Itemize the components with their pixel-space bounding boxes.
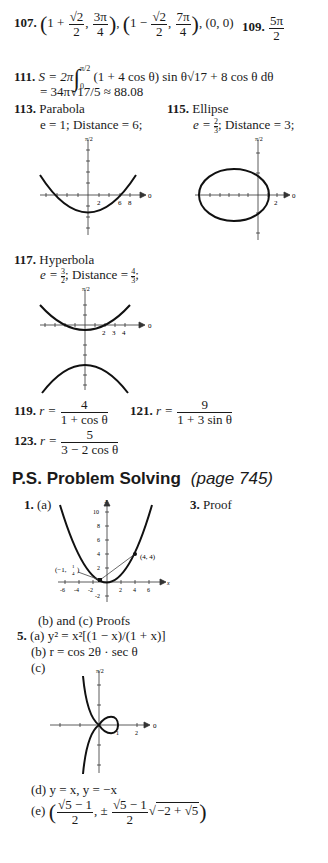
answer-119: 119. r = 41 + cos θ [14,398,109,426]
svg-text:4: 4 [122,329,126,337]
answer-117: 117. Hyperbola [14,252,94,268]
svg-text:π/2: π/2 [96,668,104,674]
graph-ps1-parabola: y x 10 8 6 4 2 -2 -6 -4 -2 2 4 6 (4, 4) … [0,500,175,610]
svg-text:0: 0 [148,322,152,330]
svg-text:-6: -6 [60,587,65,593]
svg-text:4: 4 [97,551,100,557]
svg-text:2: 2 [119,587,122,593]
svg-text:-2: -2 [88,587,93,593]
ps-5d: (d) y = x, y = −x [31,782,117,798]
svg-text:y: y [104,500,108,503]
svg-text:8: 8 [97,523,100,529]
ps-1-bc: (b) and (c) Proofs [38,613,130,629]
answer-113-detail: e = 1; Distance = 6; [40,117,142,133]
svg-text:(−1,: (−1, [55,566,67,574]
svg-text:2: 2 [97,565,100,571]
answer-113: 113. Parabola [14,101,85,117]
svg-text:0: 0 [292,192,296,200]
svg-text:2: 2 [97,199,101,207]
answer-123: 123. r = 53 − 2 cos θ [14,428,119,456]
ps-5b: (b) r = cos 2θ · sec θ [31,644,138,660]
answer-115: 115. Ellipse [167,101,228,117]
svg-text:10: 10 [93,509,99,515]
svg-text:x: x [166,580,170,586]
svg-text:-4: -4 [74,587,79,593]
svg-text:π/2: π/2 [255,136,263,142]
svg-text:4: 4 [72,571,75,576]
ps-5a: 5. (a) y² = x²[(1 − x)/(1 + x)] [17,628,166,644]
graph-hyperbola-117: π/2 2 3 4 0 [0,285,170,395]
svg-text:2: 2 [102,329,106,337]
svg-text:6: 6 [147,587,150,593]
answer-115-detail: e = 23; Distance = 3; [193,117,294,135]
answer-109: 109. 5π2 [242,14,285,42]
answer-117-detail: e = 32; Distance = 43; [40,267,139,285]
svg-text:0: 0 [148,192,152,200]
svg-text:2: 2 [274,199,278,207]
svg-text:2: 2 [135,730,138,736]
svg-text:1: 1 [116,730,119,736]
svg-text:0: 0 [153,722,157,730]
ps-5e: (e) (√5 − 12, ± √5 − 12√−2 + √5) [31,798,207,826]
graph-parabola-113: π/2 2 6 8 0 [0,135,165,250]
svg-text:6: 6 [118,199,122,207]
answer-111-result: = 34π√17/5 ≈ 88.08 [40,84,143,100]
svg-text:1: 1 [72,564,75,569]
graph-ellipse-115: π/2 2 0 [170,135,328,245]
ps-3: 3. Proof [190,497,232,513]
answer-121: 121. r = 91 + 3 sin θ [130,398,233,426]
svg-text:3: 3 [112,329,116,337]
svg-text:6: 6 [97,537,100,543]
graph-ps5-strophoid: π/2 1 2 0 [40,668,170,778]
answer-107: 107. (1 + √22, 3π4), (1 − √22, 7π4), (0,… [14,10,234,38]
section-heading: P.S. Problem Solving(page 745) [12,469,273,489]
svg-text:π/2: π/2 [85,136,93,142]
svg-text:-2: -2 [95,593,100,599]
svg-text:(4, 4): (4, 4) [140,553,156,561]
svg-text:4: 4 [133,587,136,593]
svg-text:π/2: π/2 [82,286,90,292]
svg-text:8: 8 [128,199,132,207]
